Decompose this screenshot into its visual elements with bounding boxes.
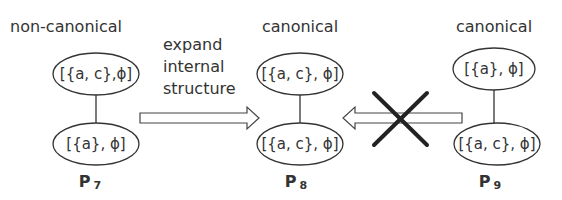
graph-p9-title: canonical — [456, 17, 532, 36]
graph-p7: non-canonical [{a, c},ϕ] [{a}, ϕ] P7 — [10, 17, 139, 192]
graph-p7-label: P7 — [79, 172, 101, 192]
graph-p8-label: P8 — [285, 172, 307, 192]
graph-p8-title: canonical — [262, 17, 338, 36]
diagram-canvas: non-canonical [{a, c},ϕ] [{a}, ϕ] P7 exp… — [0, 0, 562, 200]
arrow-label-line-2: internal — [163, 57, 224, 76]
graph-p9-label: P9 — [479, 172, 501, 192]
arrow-label-line-3: structure — [163, 79, 236, 98]
node-p7-top: [{a, c},ϕ] — [60, 65, 132, 83]
node-p9-top: [{a}, ϕ] — [464, 60, 523, 78]
graph-p8: canonical [{a, c}, ϕ] [{a, c}, ϕ] P8 — [257, 17, 343, 192]
node-p9-bottom: [{a, c}, ϕ] — [458, 135, 535, 153]
node-p8-top: [{a, c}, ϕ] — [261, 65, 338, 83]
node-p8-bottom: [{a, c}, ϕ] — [261, 135, 338, 153]
arrow-crossed — [343, 93, 462, 145]
node-p7-bottom: [{a}, ϕ] — [66, 135, 125, 153]
graph-p9: canonical [{a}, ϕ] [{a, c}, ϕ] P9 — [453, 17, 540, 192]
arrow-label-line-1: expand — [163, 35, 222, 54]
arrow-expand: expand internal structure — [140, 35, 259, 129]
hollow-right-arrow-icon — [140, 107, 259, 129]
graph-p7-title: non-canonical — [10, 17, 122, 36]
